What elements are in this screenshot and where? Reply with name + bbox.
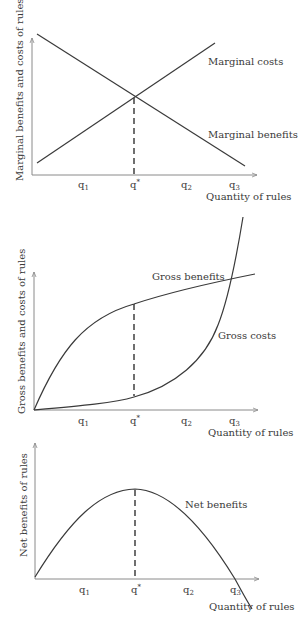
x-axis-label: Quantity of rules: [206, 191, 291, 202]
marginal-benefits-label: Marginal benefits: [208, 129, 298, 140]
x-ticks: q1 q* q2 q3: [79, 583, 241, 597]
y-axis-label: Gross benefits and costs of rules: [16, 249, 27, 414]
marginal-benefits-line: [37, 34, 245, 166]
diagram-canvas: Marginal costs Marginal benefits q1 q* q…: [0, 0, 300, 629]
gross-costs-curve: [34, 217, 243, 410]
tick-q1: q1: [78, 415, 89, 428]
x-ticks: q1 q* q2 q3: [78, 414, 240, 428]
tick-qstar: q*: [130, 178, 140, 190]
tick-q2: q2: [181, 179, 192, 192]
tick-qstar: q*: [130, 414, 140, 426]
net-benefits-label: Net benefits: [185, 499, 247, 510]
tick-q2: q2: [183, 584, 194, 597]
x-axis-label: Quantity of rules: [208, 427, 293, 438]
tick-qstar: q*: [131, 583, 141, 595]
x-ticks: q1 q* q2 q3: [78, 178, 240, 192]
gross-chart: Gross benefits Gross costs q1 q* q2 q3 Q…: [16, 217, 293, 438]
gross-benefits-curve: [34, 274, 255, 410]
marginal-chart: Marginal costs Marginal benefits q1 q* q…: [14, 0, 298, 202]
gross-benefits-label: Gross benefits: [152, 271, 225, 282]
tick-q2: q2: [181, 415, 192, 428]
tick-q1: q1: [79, 584, 90, 597]
y-axis-label: Marginal benefits and costs of rules: [14, 0, 25, 181]
x-axis-label: Quantity of rules: [209, 601, 294, 612]
net-chart: Net benefits q1 q* q2 q3 Quantity of rul…: [18, 443, 294, 612]
gross-costs-label: Gross costs: [218, 330, 276, 341]
marginal-costs-label: Marginal costs: [208, 56, 283, 67]
y-axis-label: Net benefits of rules: [18, 453, 29, 557]
tick-q1: q1: [78, 179, 89, 192]
marginal-costs-line: [37, 43, 215, 163]
